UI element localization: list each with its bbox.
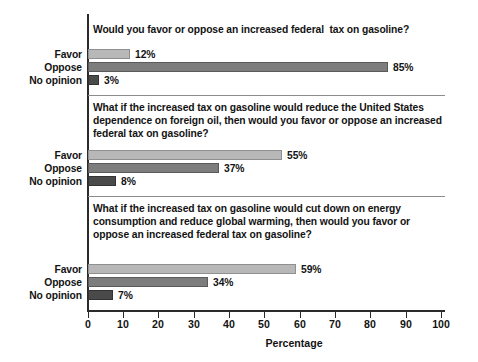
x-tick-label-40: 40	[209, 318, 249, 330]
bar-favor-3	[88, 264, 296, 274]
category-label-favor-1: Favor	[0, 48, 82, 61]
question-text-3: What if the increased tax on gasoline wo…	[93, 202, 445, 241]
x-tick-label-100: 100	[421, 318, 461, 330]
question-text-2: What if the increased tax on gasoline wo…	[93, 101, 445, 140]
bar-no-opinion-2	[88, 176, 116, 186]
x-tick-label-20: 20	[138, 318, 178, 330]
bar-no-opinion-1	[88, 75, 99, 85]
x-tick-label-90: 90	[386, 318, 426, 330]
category-label-oppose-3: Oppose	[0, 276, 82, 289]
bar-value-favor-1: 12%	[135, 48, 155, 61]
bar-value-no-opinion-1: 3%	[104, 74, 119, 87]
bar-row-favor-1: Favor 12%	[0, 48, 478, 61]
category-label-oppose-1: Oppose	[0, 61, 82, 74]
category-label-no-opinion-1: No opinion	[0, 74, 82, 87]
bar-oppose-2	[88, 163, 219, 173]
x-tick-label-0: 0	[68, 318, 108, 330]
bar-value-favor-3: 59%	[301, 263, 321, 276]
bar-favor-2	[88, 150, 282, 160]
bar-row-no-opinion-1: No opinion 3%	[0, 74, 478, 87]
bar-row-no-opinion-2: No opinion 8%	[0, 175, 478, 188]
x-tick-label-70: 70	[315, 318, 355, 330]
gasoline-tax-poll-chart: Would you favor or oppose an increased f…	[0, 0, 478, 362]
x-tick-label-50: 50	[244, 318, 284, 330]
bar-value-no-opinion-2: 8%	[121, 175, 136, 188]
bar-value-oppose-3: 34%	[213, 276, 233, 289]
x-axis-title: Percentage	[234, 337, 354, 349]
bar-favor-1	[88, 49, 130, 59]
x-tick-label-30: 30	[174, 318, 214, 330]
category-label-oppose-2: Oppose	[0, 162, 82, 175]
bar-row-favor-2: Favor 55%	[0, 149, 478, 162]
x-tick-label-10: 10	[103, 318, 143, 330]
x-axis-line	[87, 310, 445, 312]
bar-oppose-1	[88, 62, 388, 72]
category-label-favor-3: Favor	[0, 263, 82, 276]
bar-oppose-3	[88, 277, 208, 287]
group-separator-2	[88, 196, 445, 197]
x-tick-label-60: 60	[280, 318, 320, 330]
category-label-no-opinion-3: No opinion	[0, 289, 82, 302]
x-tick-label-80: 80	[350, 318, 390, 330]
bar-row-no-opinion-3: No opinion 7%	[0, 289, 478, 302]
bar-row-oppose-2: Oppose 37%	[0, 162, 478, 175]
question-text-1: Would you favor or oppose an increased f…	[93, 23, 445, 36]
bar-value-oppose-1: 85%	[393, 61, 413, 74]
bar-value-favor-2: 55%	[287, 149, 307, 162]
bar-value-oppose-2: 37%	[224, 162, 244, 175]
bar-row-favor-3: Favor 59%	[0, 263, 478, 276]
bar-no-opinion-3	[88, 290, 113, 300]
category-label-favor-2: Favor	[0, 149, 82, 162]
group-separator-1	[88, 95, 445, 96]
bar-row-oppose-1: Oppose 85%	[0, 61, 478, 74]
bar-row-oppose-3: Oppose 34%	[0, 276, 478, 289]
bar-value-no-opinion-3: 7%	[118, 289, 133, 302]
category-label-no-opinion-2: No opinion	[0, 175, 82, 188]
